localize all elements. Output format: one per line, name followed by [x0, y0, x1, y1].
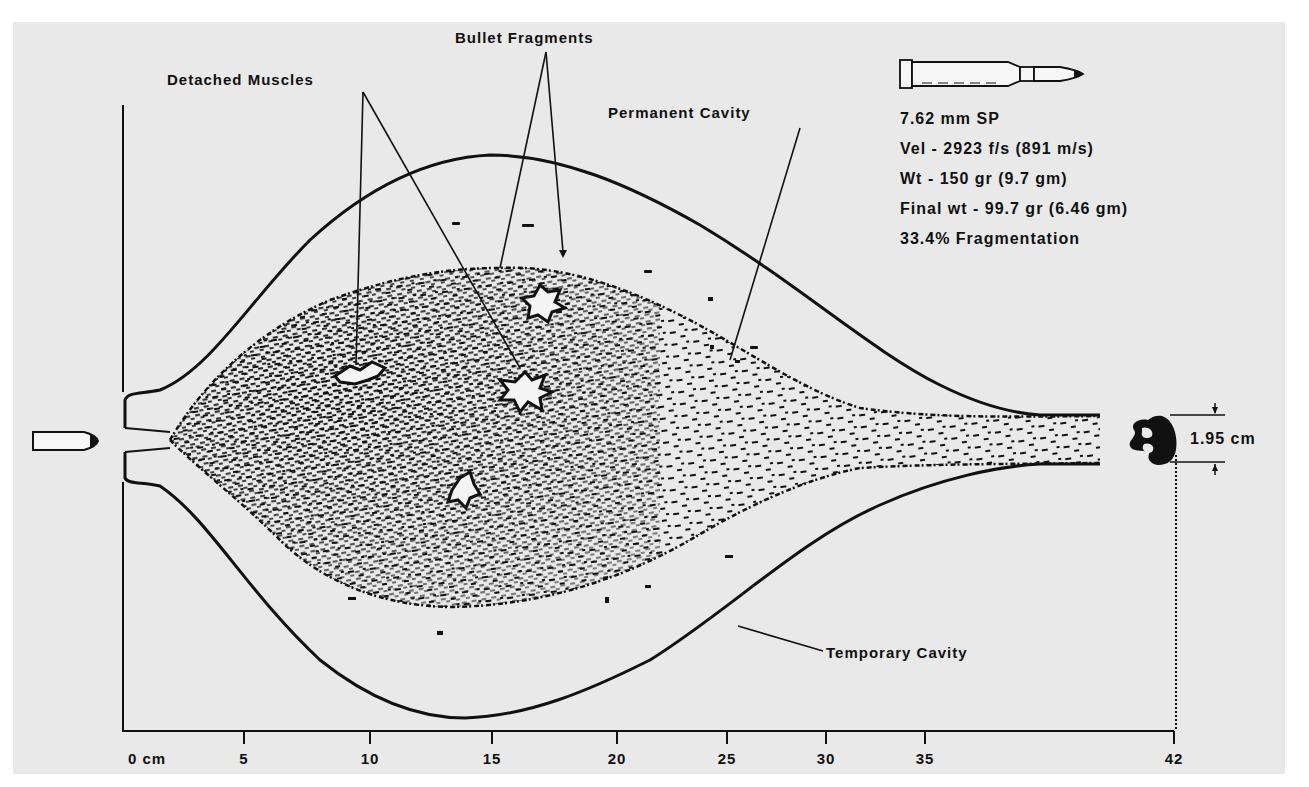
spec-fragmentation: 33.4% Fragmentation — [900, 230, 1080, 248]
tick-label-25: 25 — [718, 750, 737, 767]
tick-label-5: 5 — [239, 750, 248, 767]
tick-label-15: 15 — [483, 750, 502, 767]
depth-axis — [123, 731, 1174, 744]
tick-label-10: 10 — [361, 750, 380, 767]
tick-label-42: 42 — [1165, 750, 1184, 767]
spec-caliber: 7.62 mm SP — [900, 110, 1000, 128]
bullet-icon — [33, 432, 98, 450]
tick-label-35: 35 — [916, 750, 935, 767]
label-bullet-fragments: Bullet Fragments — [455, 30, 594, 45]
label-detached-muscles: Detached Muscles — [167, 72, 314, 87]
spec-velocity: Vel - 2923 f/s (891 m/s) — [900, 140, 1094, 158]
rifle-cartridge-icon — [900, 60, 1083, 88]
label-temporary-cavity: Temporary Cavity — [826, 645, 968, 660]
label-permanent-cavity: Permanent Cavity — [608, 105, 751, 120]
tick-label-30: 30 — [817, 750, 836, 767]
spec-final-weight: Final wt - 99.7 gr (6.46 gm) — [900, 200, 1128, 218]
deformed-bullet-icon — [1130, 416, 1177, 465]
fragment-arrowhead — [559, 250, 567, 258]
tick-label-20: 20 — [608, 750, 627, 767]
spec-weight: Wt - 150 gr (9.7 gm) — [900, 170, 1068, 188]
label-exit-diameter: 1.95 cm — [1190, 431, 1256, 446]
tick-label-0: 0 cm — [128, 750, 166, 767]
permanent-cavity — [125, 260, 1120, 620]
